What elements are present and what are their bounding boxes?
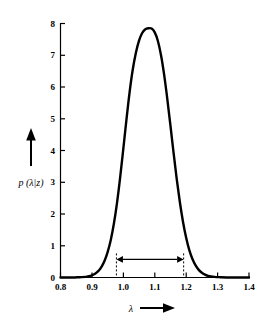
- y-tick-label-2: 2: [51, 209, 56, 219]
- y-axis-direction-arrow-icon: [26, 128, 36, 166]
- y-tick-label-8: 8: [51, 19, 56, 29]
- interval-left-arrowhead-icon: [116, 256, 123, 263]
- y-tick-label-3: 3: [51, 177, 56, 187]
- y-tick-label-7: 7: [51, 50, 56, 60]
- y-axis-label: p (λ|z): [17, 177, 44, 189]
- interval-right-arrowhead-icon: [177, 256, 184, 263]
- x-tick-label-3: 1.1: [149, 282, 161, 292]
- y-tick-label-6: 6: [51, 82, 56, 92]
- y-arrow-head-icon: [26, 128, 36, 141]
- y-axis-tick-labels: 0 1 2 3 4 5 6 7 8: [51, 19, 56, 283]
- probability-density-plot: 0 1 2 3 4 5 6 7 8 0.8 0.9 1.0 1.1 1.2: [0, 0, 273, 327]
- x-axis-label-group: λ: [128, 303, 175, 314]
- x-tick-label-6: 1.4: [243, 282, 255, 292]
- y-axis-label-text: p (λ|z): [17, 177, 44, 189]
- x-arrow-head-icon: [163, 303, 175, 313]
- y-axis-ticks: [61, 24, 66, 278]
- y-tick-label-4: 4: [51, 146, 56, 156]
- credible-interval-annotation: [116, 253, 183, 277]
- y-tick-label-0: 0: [51, 273, 56, 283]
- x-tick-label-4: 1.2: [181, 282, 193, 292]
- x-axis-label: λ: [128, 303, 134, 314]
- x-axis-tick-labels: 0.8 0.9 1.0 1.1 1.2 1.3 1.4: [55, 282, 255, 292]
- x-tick-label-5: 1.3: [212, 282, 224, 292]
- x-tick-label-1: 0.9: [86, 282, 98, 292]
- x-tick-label-0: 0.8: [55, 282, 67, 292]
- x-tick-label-2: 1.0: [118, 282, 130, 292]
- y-tick-label-1: 1: [51, 241, 56, 251]
- figure-root: 0 1 2 3 4 5 6 7 8 0.8 0.9 1.0 1.1 1.2: [0, 0, 273, 327]
- y-tick-label-5: 5: [51, 114, 56, 124]
- density-curve: [61, 28, 250, 277]
